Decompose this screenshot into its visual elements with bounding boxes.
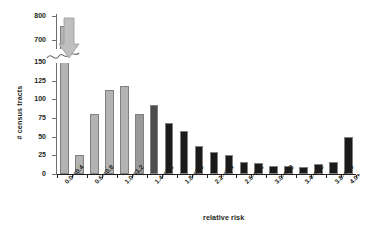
bar bbox=[105, 90, 114, 174]
bar bbox=[329, 162, 338, 174]
x-tick bbox=[147, 175, 148, 178]
bar bbox=[150, 105, 159, 174]
bar bbox=[269, 166, 278, 174]
x-tick bbox=[326, 175, 327, 178]
bar bbox=[210, 152, 219, 174]
y-tick-label: 700 bbox=[0, 36, 46, 43]
bar-series bbox=[57, 14, 356, 174]
y-tick-label: 0 bbox=[0, 170, 46, 177]
x-tick bbox=[296, 175, 297, 178]
y-tick-label: 100 bbox=[0, 95, 46, 102]
y-tick-label: 125 bbox=[0, 77, 46, 84]
x-tick bbox=[87, 175, 88, 178]
callout-arrow-icon bbox=[58, 16, 88, 60]
y-tick-label: 800 bbox=[0, 12, 46, 19]
bar bbox=[299, 167, 308, 174]
y-tick-label: 75 bbox=[0, 114, 46, 121]
bar bbox=[180, 131, 189, 174]
bar bbox=[240, 162, 249, 174]
bar-chart: # census tracts relative risk 0255075100… bbox=[0, 0, 370, 237]
y-tick-label: 50 bbox=[0, 133, 46, 140]
x-axis-title: relative risk bbox=[203, 213, 244, 222]
x-tick bbox=[57, 175, 58, 178]
bar bbox=[90, 114, 99, 174]
x-tick bbox=[207, 175, 208, 178]
x-tick bbox=[117, 175, 118, 178]
x-tick bbox=[266, 175, 267, 178]
x-tick bbox=[177, 175, 178, 178]
bar bbox=[120, 86, 129, 174]
y-tick-label: 25 bbox=[0, 151, 46, 158]
y-tick-label: 150 bbox=[0, 58, 46, 65]
x-tick bbox=[236, 175, 237, 178]
